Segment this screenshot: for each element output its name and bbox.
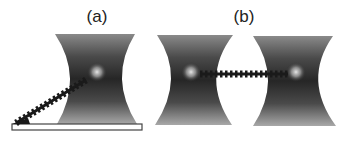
panel-b-label: (b) <box>234 7 255 26</box>
trapped-bead-right-icon <box>286 62 306 82</box>
trapped-bead-left-icon <box>181 62 201 82</box>
panel-b: (b) <box>155 7 336 126</box>
optical-trap-diagram: (a) (b) <box>0 0 347 141</box>
trapped-bead-icon <box>87 62 107 82</box>
substrate <box>12 124 142 130</box>
panel-a-label: (a) <box>87 7 108 26</box>
panel-a: (a) <box>12 7 142 130</box>
